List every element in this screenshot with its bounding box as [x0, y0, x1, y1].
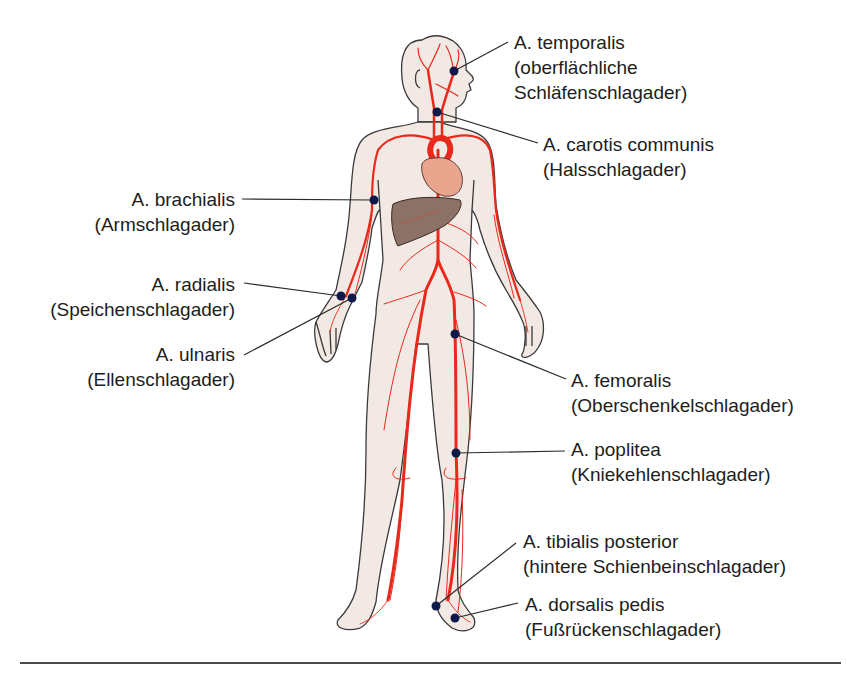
label-poplitea: A. poplitea (Kniekehlenschlagader) — [571, 437, 771, 487]
label-german: (Ellenschlagader) — [87, 367, 235, 392]
label-german: (Fußrückenschlagader) — [525, 617, 721, 642]
label-latin: A. poplitea — [571, 437, 771, 462]
pulse-dot-ulnaris[interactable] — [348, 294, 357, 303]
label-temporalis: A. temporalis (oberflächliche Schläfensc… — [514, 30, 687, 105]
label-german: (hintere Schienbeinschlagader) — [523, 554, 786, 579]
bottom-divider — [20, 662, 841, 664]
label-german: (Halsschlagader) — [543, 157, 714, 182]
label-ulnaris: A. ulnaris (Ellenschlagader) — [87, 342, 235, 392]
label-latin: A. femoralis — [571, 368, 794, 393]
label-radialis: A. radialis (Speichenschlagader) — [50, 272, 235, 322]
label-dorsalis: A. dorsalis pedis (Fußrückenschlagader) — [525, 592, 721, 642]
pulse-dot-brachialis[interactable] — [370, 196, 379, 205]
label-latin: A. dorsalis pedis — [525, 592, 721, 617]
label-femoralis: A. femoralis (Oberschenkelschlagader) — [571, 368, 794, 418]
label-german: (Speichenschlagader) — [50, 297, 235, 322]
label-german: (oberflächliche — [514, 55, 687, 80]
label-german: (Kniekehlenschlagader) — [571, 462, 771, 487]
pulse-dot-dorsalis[interactable] — [451, 614, 460, 623]
label-latin: A. radialis — [50, 272, 235, 297]
pulse-dot-femoralis[interactable] — [451, 330, 460, 339]
pulse-dot-temporalis[interactable] — [450, 67, 459, 76]
label-german: (Armschlagader) — [95, 212, 235, 237]
arterial-pulse-diagram: A. temporalis (oberflächliche Schläfensc… — [0, 0, 846, 679]
label-latin: A. tibialis posterior — [523, 529, 786, 554]
label-german: Schläfenschlagader) — [514, 80, 687, 105]
label-latin: A. brachialis — [95, 187, 235, 212]
label-latin: A. ulnaris — [87, 342, 235, 367]
pulse-dot-tibialis[interactable] — [432, 602, 441, 611]
pulse-dot-carotis[interactable] — [433, 108, 442, 117]
label-latin: A. carotis communis — [543, 132, 714, 157]
body-silhouette — [315, 36, 544, 631]
pulse-dot-radialis[interactable] — [337, 292, 346, 301]
label-tibialis: A. tibialis posterior (hintere Schienbei… — [523, 529, 786, 579]
label-latin: A. temporalis — [514, 30, 687, 55]
label-german: (Oberschenkelschlagader) — [571, 393, 794, 418]
pulse-dot-poplitea[interactable] — [452, 449, 461, 458]
label-carotis: A. carotis communis (Halsschlagader) — [543, 132, 714, 182]
label-brachialis: A. brachialis (Armschlagader) — [95, 187, 235, 237]
